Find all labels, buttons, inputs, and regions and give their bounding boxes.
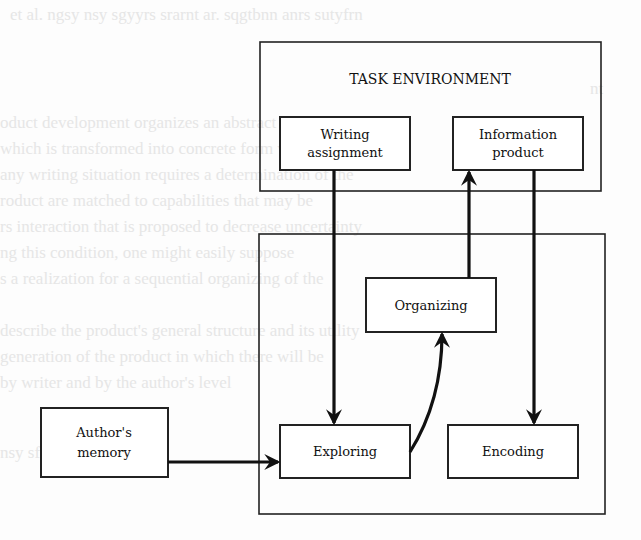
exploring-label: Exploring	[313, 444, 377, 459]
writing-assignment-line2: assignment	[307, 145, 383, 160]
information-product-box	[453, 117, 583, 170]
arrow-exploring-to-organizing	[410, 334, 442, 452]
information-product-line2: product	[492, 145, 544, 160]
writing-process-diagram: TASK ENVIRONMENT Writing assignment Info…	[0, 0, 641, 540]
writing-assignment-line1: Writing	[320, 127, 369, 142]
writing-assignment-box	[280, 117, 410, 170]
diagram-canvas: et al. ngsy nsy sgyyrs srarnt ar. sqgtbn…	[0, 0, 641, 540]
information-product-line1: Information	[479, 127, 558, 142]
task-environment-title: TASK ENVIRONMENT	[349, 71, 511, 87]
authors-memory-box	[41, 408, 168, 477]
encoding-label: Encoding	[482, 444, 544, 459]
organizing-label: Organizing	[394, 298, 467, 313]
authors-memory-line1: Author's	[75, 425, 132, 440]
authors-memory-line2: memory	[77, 445, 131, 460]
